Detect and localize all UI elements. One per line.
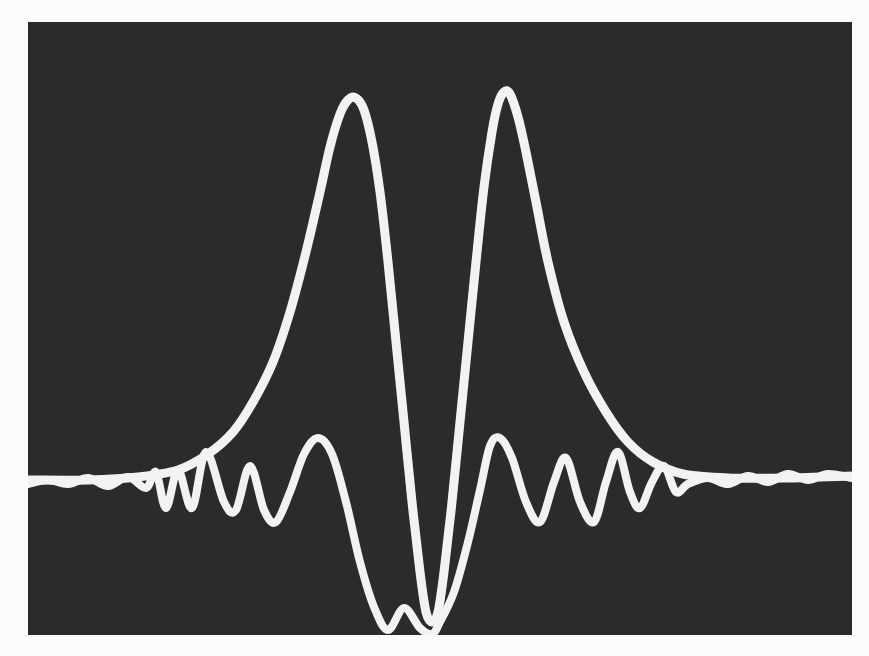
twin-peak-envelope-trace (28, 91, 852, 622)
oscilloscope-screen (28, 22, 852, 635)
photo-page (0, 0, 869, 656)
waveform-display (28, 22, 852, 635)
